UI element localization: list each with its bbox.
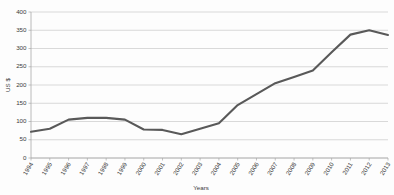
- x-axis: [31, 158, 388, 161]
- x-tick-label: 1999: [115, 160, 129, 176]
- y-tick-label: 300: [16, 44, 27, 51]
- x-tick-label: 1996: [59, 160, 73, 176]
- x-tick-label: 2012: [359, 160, 373, 176]
- chart-svg: 050100150200250300350400 199419951996199…: [0, 0, 394, 195]
- y-tick-label: 100: [16, 117, 27, 124]
- y-tick-label: 0: [23, 154, 27, 161]
- line-chart-figure: 050100150200250300350400 199419951996199…: [0, 0, 394, 195]
- x-tick-label: 1994: [21, 160, 35, 176]
- x-tick-label: 1997: [77, 160, 91, 176]
- y-axis-title: US $: [4, 78, 11, 92]
- x-tick-label: 2001: [153, 160, 167, 176]
- gridlines: [29, 12, 389, 158]
- x-tick-label: 1995: [40, 160, 54, 176]
- x-tick-label: 2000: [134, 160, 148, 176]
- x-tick-label: 2011: [341, 160, 354, 175]
- x-tick-label: 2010: [322, 160, 336, 176]
- x-tick-label: 2008: [284, 160, 298, 176]
- x-tick-label: 2003: [190, 160, 204, 176]
- x-tick-label: 2006: [247, 160, 261, 176]
- y-tick-label: 350: [16, 26, 27, 33]
- x-tick-label: 2009: [303, 160, 317, 176]
- x-tick-label: 2004: [209, 160, 223, 176]
- y-tick-label: 400: [16, 8, 27, 15]
- y-tick-label: 150: [16, 99, 27, 106]
- chart-screenshot: 050100150200250300350400 199419951996199…: [0, 0, 394, 195]
- series-line-us-dollar: [31, 30, 388, 134]
- y-tick-label: 50: [20, 135, 27, 142]
- y-tick-label: 250: [16, 62, 27, 69]
- x-tick-label: 1998: [96, 160, 110, 176]
- x-tick-label: 2002: [171, 160, 185, 176]
- y-tick-label: 200: [16, 81, 27, 88]
- x-tick-label: 2007: [265, 160, 279, 176]
- x-tick-label: 2013: [378, 160, 392, 176]
- data-series: [31, 30, 388, 134]
- x-tick-labels: 1994199519961997199819992000200120022003…: [21, 160, 392, 176]
- x-axis-title: Years: [193, 184, 209, 191]
- x-tick-label: 2005: [228, 160, 242, 176]
- y-tick-labels: 050100150200250300350400: [16, 8, 27, 161]
